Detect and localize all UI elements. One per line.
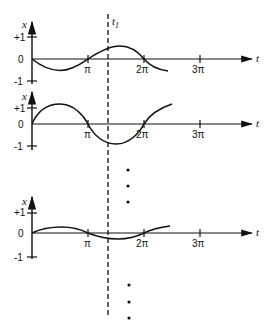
svg-text:+1: +1 xyxy=(14,207,26,218)
svg-text:t: t xyxy=(256,226,260,238)
svg-text:π: π xyxy=(84,238,91,249)
svg-text:3π: 3π xyxy=(192,64,205,75)
svg-text:π: π xyxy=(84,64,91,75)
svg-text:-1: -1 xyxy=(14,252,23,263)
t1-label: t1 xyxy=(112,15,119,30)
svg-text:-1: -1 xyxy=(14,141,23,152)
ellipsis-top xyxy=(126,168,129,203)
svg-text:x: x xyxy=(21,195,27,207)
panel-1: x +1 0 -1 π 2π 3π t xyxy=(14,18,260,87)
svg-text:0: 0 xyxy=(18,119,24,130)
svg-text:x: x xyxy=(21,90,27,102)
figure: t1 x +1 0 -1 π 2π 3π t x +1 0 -1 π 2π 3π… xyxy=(0,0,274,334)
svg-text:t: t xyxy=(256,117,260,129)
svg-text:2π: 2π xyxy=(136,238,149,249)
svg-text:x: x xyxy=(21,18,27,30)
svg-text:2π: 2π xyxy=(136,129,149,140)
svg-text:0: 0 xyxy=(18,228,24,239)
panel-2: x +1 0 -1 π 2π 3π t xyxy=(14,90,260,152)
svg-text:-1: -1 xyxy=(14,76,23,87)
svg-text:3π: 3π xyxy=(192,129,205,140)
panel-3: x +1 0 -1 π 2π 3π t xyxy=(14,195,260,263)
svg-text:3π: 3π xyxy=(192,238,205,249)
svg-text:π: π xyxy=(84,129,91,140)
ellipsis-bottom xyxy=(127,283,130,319)
svg-text:+1: +1 xyxy=(14,32,26,43)
svg-text:0: 0 xyxy=(18,54,24,65)
svg-text:t: t xyxy=(256,52,260,64)
svg-text:+1: +1 xyxy=(14,103,26,114)
svg-text:2π: 2π xyxy=(136,64,149,75)
